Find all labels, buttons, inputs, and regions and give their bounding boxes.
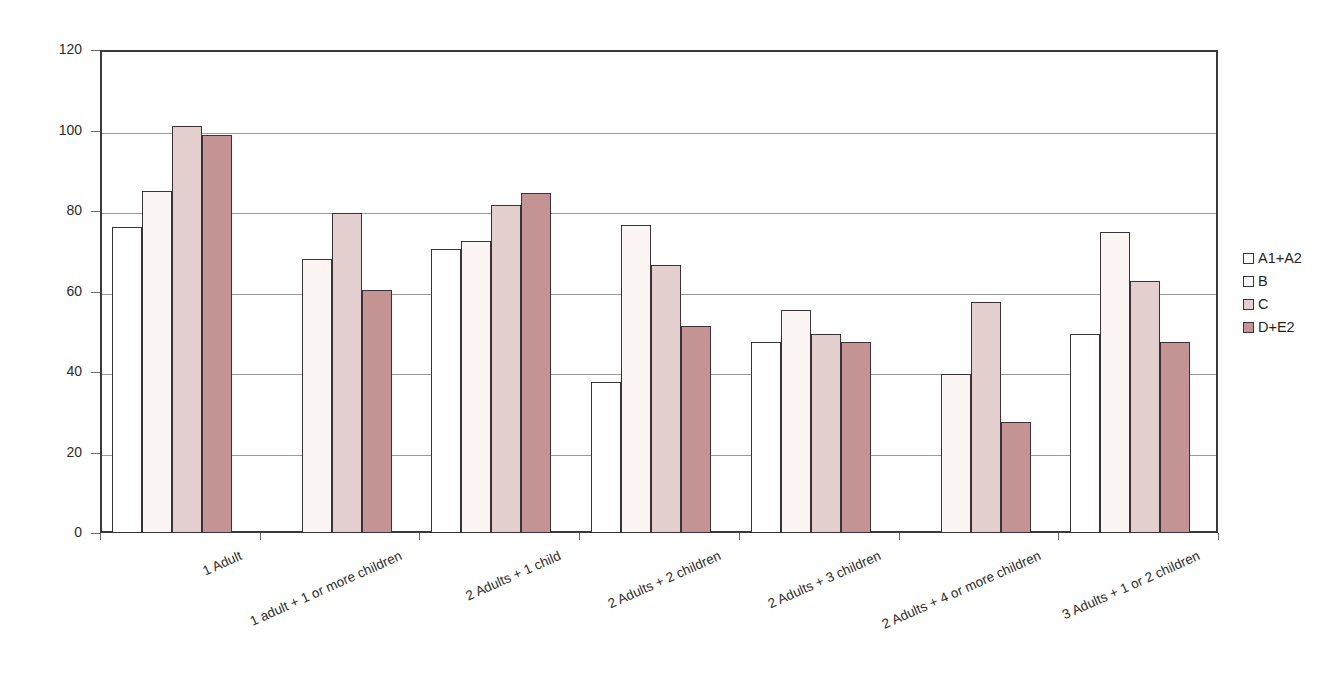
bar-c <box>332 213 362 533</box>
x-tick-mark <box>899 533 900 540</box>
legend-item-label: C <box>1258 296 1268 312</box>
legend-swatch-icon <box>1243 299 1254 310</box>
bar-chart: 020406080100120 1 Adult1 adult + 1 or mo… <box>0 0 1341 688</box>
legend-item: C <box>1243 294 1339 314</box>
bar-d-e2 <box>521 193 551 533</box>
y-tick-label: 20 <box>30 444 82 460</box>
bar-b <box>142 191 172 533</box>
bar-a1-a2 <box>431 249 461 533</box>
y-tick-mark <box>91 292 100 293</box>
bar-group <box>1058 50 1218 533</box>
x-tick-mark <box>1218 533 1219 540</box>
bar-a1-a2 <box>1070 334 1100 533</box>
bar-c <box>651 265 681 533</box>
x-tick-mark <box>579 533 580 540</box>
y-tick-label: 120 <box>30 41 82 57</box>
legend-item-label: B <box>1258 273 1268 289</box>
legend-item: B <box>1243 271 1339 291</box>
y-tick-mark <box>91 372 100 373</box>
bar-b <box>302 259 332 533</box>
bar-a1-a2 <box>591 382 621 533</box>
y-tick-label: 80 <box>30 202 82 218</box>
bar-d-e2 <box>362 290 392 534</box>
x-axis-label: 1 Adult <box>0 548 244 688</box>
bar-d-e2 <box>841 342 871 533</box>
legend-item-label: A1+A2 <box>1258 250 1302 266</box>
bar-group <box>579 50 739 533</box>
bar-a1-a2 <box>112 227 142 533</box>
y-tick-mark <box>91 211 100 212</box>
bar-c <box>491 205 521 533</box>
bar-c <box>971 302 1001 533</box>
bar-group <box>260 50 420 533</box>
y-tick-mark <box>91 533 100 534</box>
bar-d-e2 <box>681 326 711 533</box>
bar-group <box>739 50 899 533</box>
y-tick-label: 0 <box>30 524 82 540</box>
y-tick-mark <box>91 453 100 454</box>
bar-d-e2 <box>202 135 232 533</box>
bar-d-e2 <box>1160 342 1190 533</box>
legend-item-label: D+E2 <box>1258 319 1295 335</box>
x-tick-mark <box>260 533 261 540</box>
chart-legend: A1+A2BCD+E2 <box>1243 248 1339 340</box>
legend-item: A1+A2 <box>1243 248 1339 268</box>
bar-group <box>100 50 260 533</box>
bar-b <box>621 225 651 533</box>
bars-layer <box>100 50 1218 533</box>
x-tick-mark <box>100 533 101 540</box>
y-tick-label: 60 <box>30 283 82 299</box>
bar-c <box>1130 281 1160 533</box>
legend-swatch-icon <box>1243 253 1254 264</box>
y-tick-mark <box>91 131 100 132</box>
y-tick-label: 100 <box>30 122 82 138</box>
legend-item: D+E2 <box>1243 317 1339 337</box>
y-tick-mark <box>91 50 100 51</box>
bar-b <box>1100 232 1130 533</box>
bar-b <box>941 374 971 533</box>
bar-d-e2 <box>1001 422 1031 533</box>
bar-b <box>461 241 491 533</box>
x-tick-mark <box>1058 533 1059 540</box>
bar-group <box>899 50 1059 533</box>
x-tick-mark <box>419 533 420 540</box>
y-tick-label: 40 <box>30 363 82 379</box>
bar-c <box>172 126 202 533</box>
x-tick-mark <box>739 533 740 540</box>
legend-swatch-icon <box>1243 276 1254 287</box>
bar-b <box>781 310 811 533</box>
bar-group <box>419 50 579 533</box>
bar-a1-a2 <box>751 342 781 533</box>
bar-c <box>811 334 841 533</box>
legend-swatch-icon <box>1243 322 1254 333</box>
